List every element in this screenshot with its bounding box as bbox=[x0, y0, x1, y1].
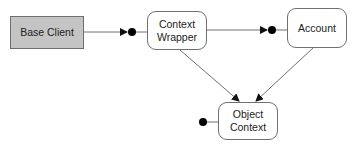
node-label: Base Client bbox=[20, 26, 74, 39]
node-label: Account bbox=[298, 22, 336, 35]
edge-account-to-object-context bbox=[256, 48, 313, 101]
node-account[interactable]: Account bbox=[287, 8, 347, 48]
edge-base-client-to-context-wrapper bbox=[84, 28, 147, 36]
object-context-interface bbox=[199, 118, 218, 126]
edge-context-wrapper-to-account bbox=[207, 26, 287, 34]
node-label: Object Context bbox=[230, 108, 266, 134]
edge-context-wrapper-to-object-context bbox=[180, 50, 239, 101]
node-context-wrapper[interactable]: Context Wrapper bbox=[147, 11, 207, 50]
node-object-context[interactable]: Object Context bbox=[218, 102, 278, 140]
interface-ball-icon bbox=[199, 118, 207, 126]
interface-ball-icon bbox=[128, 28, 136, 36]
node-label: Context Wrapper bbox=[157, 18, 197, 44]
node-base-client[interactable]: Base Client bbox=[10, 16, 84, 49]
interface-ball-icon bbox=[268, 26, 276, 34]
